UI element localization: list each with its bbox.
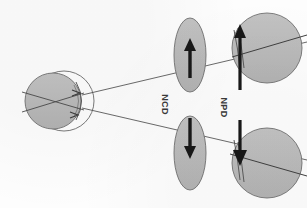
ncd-ellipse-upper [174, 18, 206, 92]
source-eye [22, 71, 94, 131]
target-eye-upper [232, 13, 307, 90]
target-eye-lower [230, 120, 307, 198]
figure-canvas: NCD NPD [0, 0, 307, 208]
npd-label: NPD [219, 90, 228, 126]
ncd-label: NCD [160, 87, 169, 123]
eye-ray-diagram [0, 0, 307, 208]
target-eye-lower-globe [232, 128, 302, 198]
ncd-ellipse-lower [174, 116, 206, 190]
target-eye-upper-globe [232, 13, 302, 83]
